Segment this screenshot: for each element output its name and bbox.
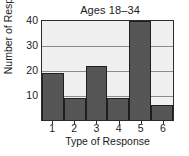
bar [86, 66, 108, 120]
bar [129, 21, 151, 120]
x-tick-label: 1 [41, 122, 63, 134]
x-tick-label: 6 [152, 122, 174, 134]
x-axis-label: Type of Response [30, 135, 185, 147]
y-axis-tick-labels: 40 30 20 10 [13, 0, 38, 156]
y-tick-label: 10 [13, 90, 38, 100]
bar-chart: Ages 18–34 Number of Responses 40 30 20 … [0, 0, 189, 156]
x-tick-label: 5 [130, 122, 152, 134]
x-tick-label: 4 [108, 122, 130, 134]
y-tick-label: 40 [13, 15, 38, 25]
bar-series [42, 21, 173, 120]
x-tick-label: 2 [63, 122, 85, 134]
bar [42, 73, 64, 120]
y-tick-label: 30 [13, 40, 38, 50]
x-tick-label: 3 [85, 122, 107, 134]
bar [151, 105, 173, 120]
x-axis-tick-labels: 1 2 3 4 5 6 [41, 122, 174, 134]
bar [107, 98, 129, 120]
bar [64, 98, 86, 120]
y-tick-label: 20 [13, 65, 38, 75]
plot-area [41, 20, 174, 121]
chart-title: Ages 18–34 [40, 4, 180, 16]
